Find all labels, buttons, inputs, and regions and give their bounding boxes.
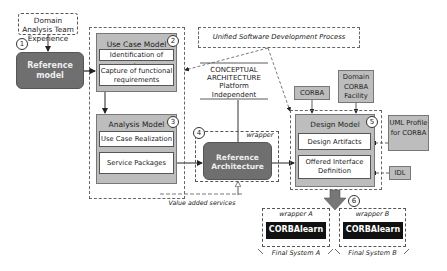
reference-model-box[interactable]: Reference model: [16, 52, 84, 89]
corbalearn-a[interactable]: CORBAlearn: [266, 222, 326, 239]
step-4-badge: 4: [193, 127, 205, 139]
offered-interface-definition[interactable]: Offered Interface Definition: [298, 155, 371, 179]
unified-process-box: Unified Software Development Process: [198, 27, 360, 48]
corba-box[interactable]: CORBA: [294, 86, 330, 100]
conceptual-line-2: ARCHITECTURE: [200, 74, 268, 82]
conceptual-architecture-label: CONCEPTUAL ARCHITECTURE Platform Indepen…: [200, 66, 268, 99]
step-5-badge: 5: [366, 116, 378, 128]
step-1-badge: 1: [16, 38, 28, 50]
conceptual-line-4: Independent: [200, 91, 268, 99]
conceptual-line-3: Platform: [200, 82, 268, 90]
design-model-title: Design Model: [296, 120, 374, 129]
step-2-badge: 2: [167, 35, 179, 47]
value-added-services-label: Value added services: [160, 198, 244, 207]
domain-analysis-label: Domain Analysis Team Experience: [22, 16, 74, 43]
conceptual-line-1: CONCEPTUAL: [200, 66, 268, 74]
use-case-realization[interactable]: Use Case Realization: [99, 131, 174, 147]
idl-box[interactable]: IDL: [389, 166, 411, 180]
design-artifacts[interactable]: Design Artifacts: [298, 133, 371, 150]
final-system-b-label: Final System B: [339, 249, 406, 258]
step-6-badge: 6: [348, 195, 360, 207]
reference-architecture-box[interactable]: Reference Architecture: [203, 142, 272, 180]
use-case-model-title: Use Case Model: [97, 40, 176, 49]
final-system-a-label: Final System A: [262, 249, 330, 258]
capture-functional-requirements[interactable]: Capture of functional requirements: [99, 64, 174, 86]
identification-of-actors[interactable]: Identification of actors: [99, 49, 174, 61]
service-packages[interactable]: Service Packages: [99, 152, 174, 174]
step-3-badge: 3: [167, 116, 179, 128]
uml-profile-box[interactable]: UML Profile for CORBA: [388, 115, 429, 151]
analysis-model-title: Analysis Model: [97, 120, 176, 129]
wrapper-label: wrapper: [245, 131, 275, 140]
domain-corba-facility-box[interactable]: Domain CORBA Facility: [338, 70, 374, 103]
wrapper-a-label: wrapper A: [263, 210, 329, 219]
corbalearn-b[interactable]: CORBAlearn: [343, 222, 403, 239]
wrapper-b-label: wrapper B: [340, 210, 405, 219]
domain-analysis-box: Domain Analysis Team Experience: [18, 13, 78, 35]
